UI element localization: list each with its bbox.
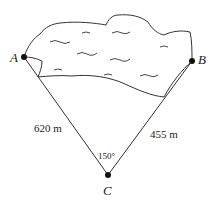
- segment-ac: [24, 57, 108, 175]
- point-c: [105, 172, 111, 178]
- angle-c: 150°: [98, 151, 116, 161]
- length-ac: 620 m: [34, 122, 62, 134]
- label-c: C: [103, 183, 112, 198]
- lake-outline: [24, 15, 192, 97]
- label-a: A: [9, 50, 18, 65]
- label-b: B: [198, 52, 206, 67]
- segment-bc: [108, 61, 192, 175]
- point-b: [189, 58, 195, 64]
- water-wave-icons: [50, 32, 168, 77]
- lake-diagram: A B C 620 m 455 m 150°: [0, 0, 214, 206]
- point-a: [21, 54, 27, 60]
- length-bc: 455 m: [150, 128, 178, 140]
